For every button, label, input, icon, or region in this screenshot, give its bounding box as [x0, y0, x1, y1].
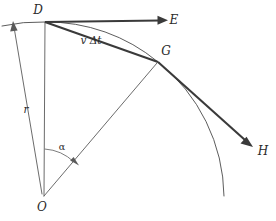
displacement-length-label: v Δt [80, 34, 102, 46]
radius-line-og [44, 63, 157, 196]
vertex-label-g: G [161, 44, 171, 58]
diagram-canvas: D E G H O r α v Δt [0, 0, 276, 221]
vertex-label-d: D [32, 3, 43, 17]
geometry-diagram: D E G H O r α v Δt [0, 0, 276, 221]
vertex-label-o: O [37, 200, 47, 214]
tangent-vector-de-arrowhead [158, 16, 169, 25]
vertex-label-e: E [169, 13, 179, 27]
radius-marker-arrowhead [10, 21, 17, 32]
circular-arc [2, 22, 224, 196]
angle-alpha-label: α [59, 141, 66, 152]
radius-line-od [44, 22, 45, 196]
tangent-vector-gh [158, 62, 245, 140]
vertex-label-h: H [257, 144, 269, 158]
tangent-vector-de [45, 21, 160, 23]
